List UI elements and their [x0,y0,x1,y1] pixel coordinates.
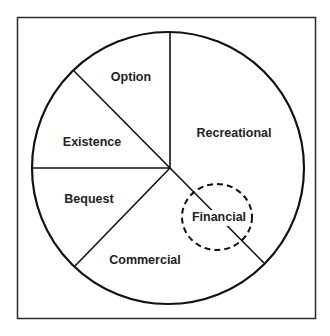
segment-label-option: Option [111,70,151,84]
highlight-label-financial: Financial [192,210,246,224]
segment-label-recreational: Recreational [196,126,271,140]
value-pie-diagram: Option Recreational Commercial Bequest E… [0,0,330,336]
segment-label-commercial: Commercial [109,253,181,267]
segment-label-bequest: Bequest [64,192,114,206]
segment-label-existence: Existence [63,135,121,149]
